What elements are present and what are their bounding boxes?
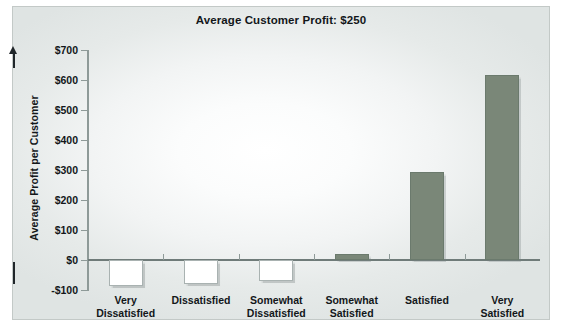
x-axis-category-label-line: Very <box>465 294 540 307</box>
x-axis-category-label-line: Somewhat <box>239 294 314 307</box>
y-axis-tick-label: $0 <box>12 254 78 266</box>
x-axis-tick <box>239 254 240 260</box>
x-axis-tick <box>314 254 315 260</box>
y-axis-tick-label: $300 <box>12 164 78 176</box>
chart-figure: Average Customer Profit: $250 Average Pr… <box>0 0 562 336</box>
x-axis-category-label-line: Very <box>88 294 163 307</box>
bar <box>335 254 369 260</box>
x-axis-category-label: VeryDissatisfied <box>88 294 163 319</box>
y-axis-tick <box>81 290 88 291</box>
x-axis-tick <box>465 254 466 260</box>
x-axis-category-label: Dissatisfied <box>163 294 238 307</box>
y-axis-tick <box>81 80 88 81</box>
y-axis-tick-label: -$100 <box>12 284 78 296</box>
x-axis-tick <box>163 254 164 260</box>
x-axis-category-label-line: Dissatisfied <box>239 307 314 320</box>
bar <box>410 172 444 261</box>
x-axis-category-label-line: Satisfied <box>314 307 389 320</box>
y-axis-tick-label: $600 <box>12 74 78 86</box>
bar <box>184 260 218 284</box>
y-axis-tick <box>81 170 88 171</box>
y-axis-tick-label: $200 <box>12 194 78 206</box>
bar <box>109 260 143 286</box>
chart-title: Average Customer Profit: $250 <box>0 14 562 26</box>
y-axis-tick <box>81 230 88 231</box>
x-axis-category-label: VerySatisfied <box>465 294 540 319</box>
y-axis-tick-label: $500 <box>12 104 78 116</box>
y-axis-tick <box>81 260 88 261</box>
x-axis-category-label-line: Satisfied <box>465 307 540 320</box>
bar <box>485 75 519 260</box>
x-axis-category-label-line: Satisfied <box>389 294 464 307</box>
y-axis-tick <box>81 140 88 141</box>
x-axis-category-label-line: Dissatisfied <box>163 294 238 307</box>
x-axis-category-label: SomewhatDissatisfied <box>239 294 314 319</box>
x-axis-category-label-line: Dissatisfied <box>88 307 163 320</box>
y-axis-tick <box>81 200 88 201</box>
bar <box>259 260 293 281</box>
x-axis-category-label: Satisfied <box>389 294 464 307</box>
y-axis-tick <box>81 110 88 111</box>
y-axis-tick <box>81 50 88 51</box>
y-axis-tick-label: $100 <box>12 224 78 236</box>
y-axis-tick-label: $700 <box>12 44 78 56</box>
x-axis-tick <box>389 254 390 260</box>
x-axis-category-label: SomewhatSatisfied <box>314 294 389 319</box>
x-axis-category-label-line: Somewhat <box>314 294 389 307</box>
y-axis-tick-label: $400 <box>12 134 78 146</box>
